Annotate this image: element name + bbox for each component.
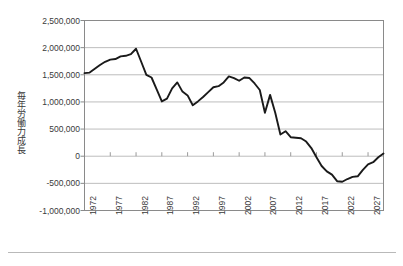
bottom-divider [8, 252, 396, 253]
data-series-line [85, 49, 384, 182]
x-tick-label: 2022 [346, 196, 356, 215]
x-tick-label: 2012 [294, 196, 304, 215]
x-tick-label: 1977 [114, 196, 124, 215]
x-tick-label: 1997 [217, 196, 227, 215]
x-tick-label: 1982 [140, 196, 150, 215]
x-tick-label: 1987 [165, 196, 175, 215]
x-axis-tick-marks [85, 152, 369, 156]
chart-figure: 毎年労働力成長 2,500,0002,000,0001,500,0001,000… [0, 0, 403, 266]
chart-plot-area [0, 0, 403, 266]
x-tick-label: 1992 [191, 196, 201, 215]
x-tick-label: 2017 [320, 196, 330, 215]
x-tick-label: 2007 [268, 196, 278, 215]
x-tick-label: 1972 [88, 196, 98, 215]
x-tick-label: 2027 [372, 196, 382, 215]
x-tick-label: 2002 [243, 196, 253, 215]
